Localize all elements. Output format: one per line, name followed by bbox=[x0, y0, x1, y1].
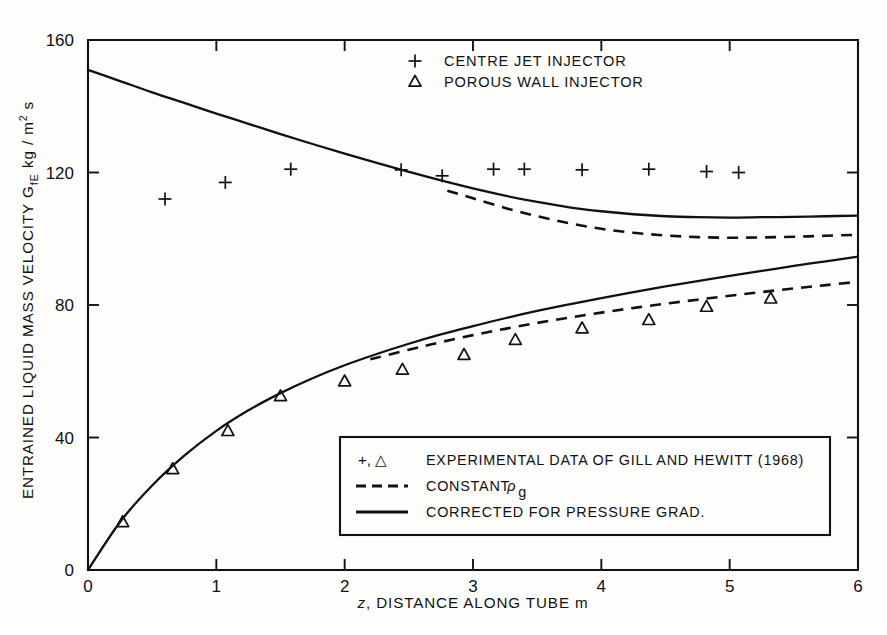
triangle-icon bbox=[409, 76, 421, 87]
x-axis-title: z, DISTANCE ALONG TUBE m bbox=[356, 594, 588, 611]
model-curves bbox=[88, 70, 858, 570]
marker-plus bbox=[576, 163, 589, 176]
y-axis-tick-labels: 04080120160 bbox=[46, 31, 74, 580]
curve-porous-wall-corrected-for-pressure-grad bbox=[88, 257, 858, 570]
legend-entry-porous-wall: POROUS WALL INJECTOR bbox=[409, 74, 644, 90]
injector-legend: CENTRE JET INJECTORPOROUS WALL INJECTOR bbox=[409, 53, 644, 90]
y-axis-title: ENTRAINED LIQUID MASS VELOCITY GfE kg / … bbox=[17, 101, 40, 499]
marker-plus bbox=[487, 163, 500, 176]
marker-plus bbox=[159, 193, 172, 206]
rho-subscript: g bbox=[518, 484, 527, 500]
curve-legend-box: +, △EXPERIMENTAL DATA OF GILL AND HEWITT… bbox=[340, 437, 830, 535]
marker-triangle bbox=[576, 322, 588, 333]
legend-box-entry-0: +, △EXPERIMENTAL DATA OF GILL AND HEWITT… bbox=[358, 451, 804, 468]
marker-plus bbox=[518, 163, 531, 176]
x-tick-label: 5 bbox=[725, 577, 734, 596]
legend-box-entry-1: CONSTANTρg bbox=[356, 478, 527, 500]
plus-triangle-icon: +, △ bbox=[358, 451, 387, 468]
marker-triangle bbox=[339, 375, 351, 386]
curve-porous-wall-constant-rho-g bbox=[370, 282, 858, 360]
marker-plus bbox=[219, 176, 232, 189]
y-tick-label: 0 bbox=[65, 561, 74, 580]
marker-plus bbox=[732, 166, 745, 179]
marker-plus bbox=[700, 165, 713, 178]
page-bottom-margin bbox=[0, 621, 887, 635]
y-tick-label: 160 bbox=[46, 31, 74, 50]
x-tick-label: 0 bbox=[83, 577, 92, 596]
marker-triangle bbox=[765, 292, 777, 303]
y-tick-label: 40 bbox=[55, 429, 74, 448]
y-axis-ticks bbox=[88, 173, 858, 438]
marker-triangle bbox=[117, 516, 129, 527]
marker-triangle bbox=[458, 348, 470, 359]
legend-box-label: CONSTANT bbox=[426, 478, 510, 494]
x-tick-label: 2 bbox=[340, 577, 349, 596]
x-tick-label: 1 bbox=[212, 577, 221, 596]
marker-triangle bbox=[509, 334, 521, 345]
legend-box-label: EXPERIMENTAL DATA OF GILL AND HEWITT (19… bbox=[426, 452, 804, 468]
marker-triangle bbox=[701, 300, 713, 311]
rho-symbol: ρ bbox=[506, 478, 516, 494]
marker-plus bbox=[395, 163, 408, 176]
legend-box-entry-2: CORRECTED FOR PRESSURE GRAD. bbox=[356, 504, 705, 520]
curve-centre-jet-constant-rho-g bbox=[447, 191, 858, 238]
marker-triangle bbox=[643, 314, 655, 325]
y-tick-label: 120 bbox=[46, 164, 74, 183]
curve-centre-jet-corrected-for-pressure-grad bbox=[88, 70, 858, 218]
legend-label: CENTRE JET INJECTOR bbox=[444, 53, 627, 69]
legend-box-label: CORRECTED FOR PRESSURE GRAD. bbox=[426, 504, 705, 520]
y-tick-label: 80 bbox=[55, 296, 74, 315]
x-tick-label: 4 bbox=[597, 577, 606, 596]
marker-plus bbox=[284, 163, 297, 176]
figure-container: 0123456 04080120160 CENTRE JET INJECTORP… bbox=[0, 0, 887, 635]
legend-label: POROUS WALL INJECTOR bbox=[444, 74, 644, 90]
x-tick-label: 6 bbox=[853, 577, 862, 596]
entrained-liquid-mass-velocity-chart: 0123456 04080120160 CENTRE JET INJECTORP… bbox=[0, 0, 887, 635]
marker-plus bbox=[642, 163, 655, 176]
marker-triangle bbox=[396, 363, 408, 374]
legend-entry-centre-jet: CENTRE JET INJECTOR bbox=[409, 53, 627, 69]
